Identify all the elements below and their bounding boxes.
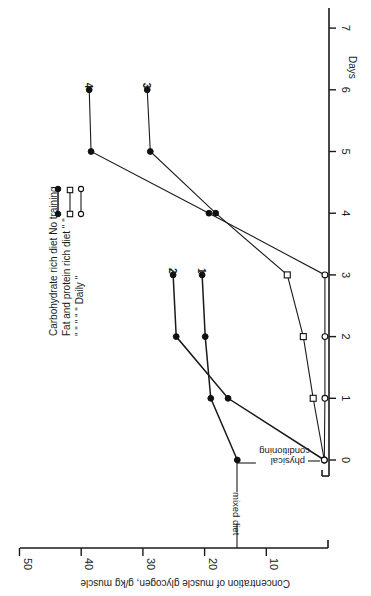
days-tick-label: 6 — [340, 87, 352, 93]
series-tag-2: 2 — [167, 268, 178, 274]
data-point — [202, 334, 208, 340]
concentration-ticks: 1020304050 — [20, 548, 281, 570]
data-point — [234, 457, 240, 463]
concentration-axis-title: Concentration of muscle glycogen, g/kg m… — [80, 578, 290, 589]
days-ticks: 01234567 — [329, 25, 352, 463]
conditioning-label: conditioning — [259, 446, 310, 457]
days-tick-label: 3 — [340, 272, 352, 278]
days-tick-label: 0 — [340, 457, 352, 463]
days-tick-label: 2 — [340, 334, 352, 340]
days-axis: 01234567 Days — [322, 8, 358, 476]
data-point — [147, 149, 153, 155]
data-point — [208, 395, 214, 401]
data-point — [173, 334, 179, 340]
series-1: 1 — [196, 268, 240, 463]
data-point — [284, 272, 290, 278]
concentration-axis: 1020304050 Concentration of muscle glyco… — [20, 540, 329, 589]
legend: Carbohydrate rich diet No training Fat a… — [48, 186, 85, 336]
concentration-tick-label: 50 — [22, 558, 34, 570]
data-point — [322, 272, 328, 278]
mixed-diet-label: mixed diet — [231, 492, 242, 536]
series-2: 2 — [167, 268, 327, 463]
concentration-tick-label: 10 — [268, 558, 280, 570]
days-tick-label: 1 — [340, 395, 352, 401]
series-layer: 1234 — [83, 83, 328, 463]
data-point — [322, 395, 328, 401]
days-tick-label: 4 — [340, 210, 352, 216]
days-tick-label: 5 — [340, 149, 352, 155]
legend-marker-open-circle — [78, 186, 83, 216]
series-tag-4: 4 — [83, 83, 94, 89]
concentration-tick-label: 40 — [83, 558, 95, 570]
concentration-tick-label: 30 — [145, 558, 157, 570]
data-point — [225, 395, 231, 401]
data-point — [300, 334, 306, 340]
data-point — [321, 457, 327, 463]
series-tag-1: 1 — [196, 268, 207, 274]
series-tag-3: 3 — [141, 83, 152, 89]
data-point — [206, 210, 212, 216]
legend-line-3: " " " " " Daily " — [74, 275, 85, 336]
days-tick-label: 7 — [340, 25, 352, 31]
mixed-diet-annotation: mixed diet — [231, 463, 256, 548]
legend-line-2: Fat and protein rich diet " " — [61, 218, 72, 336]
glycogen-chart: 01234567 Days 1020304050 Concentration o… — [0, 0, 371, 596]
physical-conditioning-annotation: physical conditioning — [259, 446, 320, 467]
days-axis-title: Days — [347, 56, 358, 79]
concentration-tick-label: 20 — [207, 558, 219, 570]
legend-marker-open-square — [67, 187, 72, 216]
data-point — [88, 149, 94, 155]
data-point — [322, 334, 328, 340]
data-point — [310, 395, 316, 401]
